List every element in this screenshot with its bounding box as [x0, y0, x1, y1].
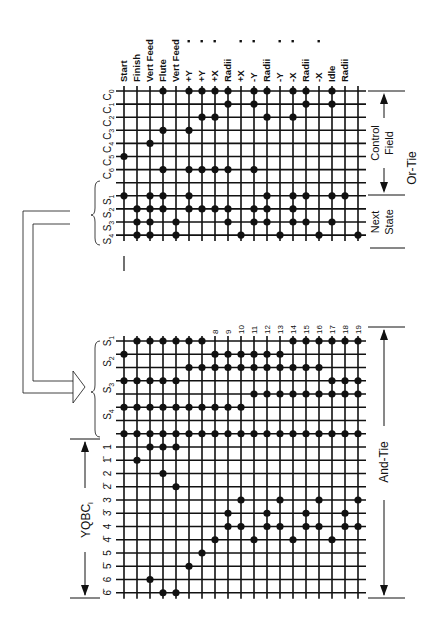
connection-dot [250, 205, 257, 212]
connection-dot [185, 166, 192, 173]
connection-dot [263, 114, 270, 121]
next-state-brace [91, 181, 100, 245]
output-dot-marker [188, 40, 190, 42]
connection-dot [172, 377, 179, 384]
product-term-numbers: 8910111213141516171819 [211, 325, 363, 334]
connection-dot [328, 337, 335, 344]
connection-dot [198, 404, 205, 411]
and-tie-row-label: S4 [102, 409, 115, 420]
arrow-up-icon [380, 93, 388, 104]
and-tie-row-label: S1 [102, 336, 115, 347]
connection-dot [159, 192, 166, 199]
connection-dot [302, 337, 309, 344]
connection-dot [328, 390, 335, 397]
output-dot-marker [318, 40, 320, 42]
product-term-number: 14 [289, 325, 298, 334]
connection-dot [263, 430, 270, 437]
output-label: -X [313, 72, 324, 82]
connection-dot [224, 218, 231, 225]
output-dot-marker [292, 40, 294, 42]
control-field-label-1: Control [369, 125, 381, 160]
connection-dot [237, 430, 244, 437]
or-tie-row-label: S4 [102, 234, 115, 245]
connection-dot [159, 430, 166, 437]
connection-dot [302, 364, 309, 371]
and-tie-row-label: 4 [102, 523, 113, 529]
and-tie-row-label: 6̄ [102, 588, 113, 596]
connection-dot [289, 205, 296, 212]
connection-dot [185, 87, 192, 94]
feedback-arrow-icon [73, 371, 85, 403]
or-tie-grid [116, 86, 366, 241]
and-tie-row-label: 2̄ [102, 482, 113, 490]
connection-dot [120, 153, 127, 160]
connection-dot [237, 496, 244, 503]
output-label: Flute [157, 59, 168, 82]
and-tie-grid [116, 336, 366, 599]
connection-dot [263, 523, 270, 530]
connection-dot [159, 443, 166, 450]
connection-dot [185, 192, 192, 199]
connection-dot [302, 510, 309, 517]
connection-dot [263, 192, 270, 199]
connection-dot [159, 87, 166, 94]
connection-dot [146, 576, 153, 583]
connection-dot [211, 114, 218, 121]
connection-dot [276, 364, 283, 371]
connection-dot [250, 166, 257, 173]
connection-dot [133, 232, 140, 239]
connection-dot [224, 364, 231, 371]
or-tie-row-label: S3 [102, 221, 115, 232]
connection-dot [185, 430, 192, 437]
connection-dot [133, 218, 140, 225]
and-tie-row-label: 1̄ [102, 455, 113, 463]
or-tie-row-label: S1 [102, 194, 115, 205]
connection-dot [328, 430, 335, 437]
connection-dot [133, 205, 140, 212]
output-dot-marker [201, 40, 203, 42]
connection-dot [315, 523, 322, 530]
connection-dot [276, 390, 283, 397]
connection-dot [185, 404, 192, 411]
connection-dot [185, 205, 192, 212]
connection-dot [354, 430, 361, 437]
output-label: Radii [261, 59, 272, 82]
connection-dot [185, 337, 192, 344]
and-tie-row-label: 5 [102, 550, 113, 556]
connection-dot [146, 377, 153, 384]
connection-dot [185, 127, 192, 134]
connection-dot [250, 536, 257, 543]
connection-dot [172, 218, 179, 225]
connection-dot [211, 205, 218, 212]
connection-dot [263, 351, 270, 358]
connection-dot [120, 404, 127, 411]
connection-dot [302, 218, 309, 225]
connection-dot [133, 377, 140, 384]
yqbc-label: YQBCi [79, 502, 95, 538]
connection-dot [289, 114, 296, 121]
output-label: +X [235, 69, 246, 82]
connection-dot [263, 390, 270, 397]
and-tie-row-label: S3 [102, 383, 115, 394]
connection-dot [198, 205, 205, 212]
feedback-path-outer [23, 211, 73, 393]
connection-dot [341, 390, 348, 397]
connection-dot [237, 351, 244, 358]
connection-dot [354, 390, 361, 397]
connection-dot [289, 364, 296, 371]
pla-state-diagram: StartFinishVert FeedFluteVert Feed+Y+Y+X… [0, 0, 430, 623]
connection-dot [315, 337, 322, 344]
connection-dot [341, 430, 348, 437]
connection-dot [341, 337, 348, 344]
connection-dot [302, 390, 309, 397]
connection-dot [263, 218, 270, 225]
connection-dot [172, 232, 179, 239]
connection-dot [198, 87, 205, 94]
and-tie-label: And-Tie [377, 441, 391, 483]
state-input-brace [91, 341, 100, 437]
connection-dot [315, 232, 322, 239]
connection-dot [315, 364, 322, 371]
connection-dot [328, 377, 335, 384]
connection-dot [172, 589, 179, 596]
connection-dot [354, 496, 361, 503]
